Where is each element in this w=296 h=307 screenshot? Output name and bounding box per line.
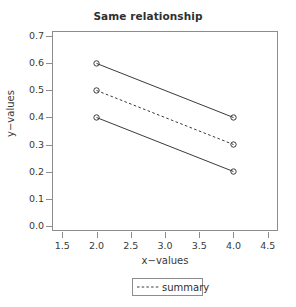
data-point-marker xyxy=(231,142,236,147)
series-line xyxy=(97,117,234,171)
y-axis-title: y−values xyxy=(5,74,16,154)
data-point-marker xyxy=(94,88,99,93)
y-axis-tick-label: 0.2 xyxy=(10,166,44,177)
series-line xyxy=(97,90,234,144)
x-axis-tick-marks xyxy=(52,232,278,239)
y-axis-tick-label: 0.7 xyxy=(10,30,44,41)
legend-item-label: summary xyxy=(162,282,209,293)
chart-legend[interactable]: summary xyxy=(132,278,203,296)
x-axis-title: x−values xyxy=(52,255,278,266)
x-axis-tick-mark xyxy=(62,232,63,238)
x-axis-tick-mark xyxy=(165,232,166,238)
series-lower xyxy=(94,115,236,174)
chart-title: Same relationship xyxy=(0,10,296,22)
x-axis-tick-label: 4.5 xyxy=(248,240,288,251)
series-upper xyxy=(94,61,236,120)
x-axis-tick-mark xyxy=(233,232,234,238)
x-axis-tick-mark xyxy=(268,232,269,238)
y-axis-tick-label: 0.1 xyxy=(10,193,44,204)
x-axis-tick-mark xyxy=(131,232,132,238)
y-axis-tick-label: 0.0 xyxy=(10,220,44,231)
y-axis-tick-label: 0.6 xyxy=(10,57,44,68)
series-line xyxy=(97,63,234,117)
chart-figure: Same relationship 0.00.10.20.30.40.50.60… xyxy=(0,0,296,307)
series-summary xyxy=(94,88,236,147)
x-axis-tick-mark xyxy=(199,232,200,238)
y-axis-tick-marks xyxy=(45,31,52,231)
plot-series-layer xyxy=(52,31,278,231)
x-axis-tick-labels: 1.52.02.53.03.54.04.5 xyxy=(52,240,278,254)
data-point-marker xyxy=(231,115,236,120)
legend-dashed-line-icon xyxy=(137,282,159,292)
x-axis-tick-mark xyxy=(97,232,98,238)
